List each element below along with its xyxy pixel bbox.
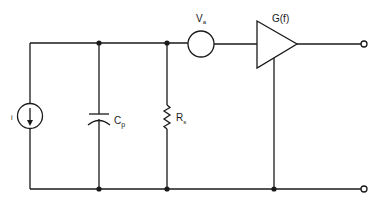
resistor-label: Rs	[176, 112, 186, 125]
capacitor-label: Cp	[114, 115, 125, 129]
amplifier-label: G(f)	[272, 13, 289, 24]
junction-nodes	[96, 40, 276, 191]
voltage-source	[188, 31, 214, 57]
output-terminal-top	[361, 41, 367, 47]
current-source-label: i	[11, 114, 13, 121]
output-terminal-bottom	[361, 186, 367, 192]
amplifier	[257, 21, 297, 68]
voltage-source-label: Va	[196, 13, 207, 25]
circuit-diagram: i Cp Rs Va G(f)	[0, 0, 376, 205]
current-source	[18, 104, 43, 129]
resistor	[164, 105, 170, 129]
